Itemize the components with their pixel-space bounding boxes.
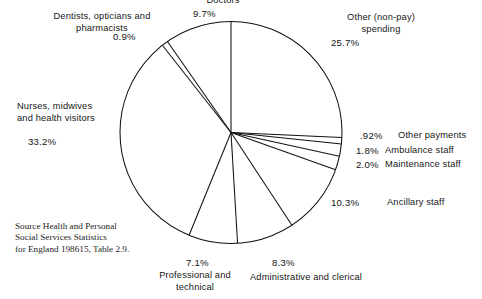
label-dentists-pct: 0.9% [113,31,136,42]
source-note-line3: for England 198615, Table 2.9. [15,244,129,255]
label-admin-name: Administrative and clerical [250,272,362,284]
label-professional: Professional and technical [133,270,257,293]
label-dentists: Dentists, opticians and pharmacists [28,11,176,34]
label-ancillary-name: Ancillary staff [387,197,444,209]
label-maintenance-name: Maintenance staff [385,159,461,171]
label-professional-line1: Professional and [133,270,257,282]
label-professional-pct: 7.1% [186,257,209,268]
label-doctors: Doctors [183,0,263,7]
label-other-payments-name: Other payments [398,130,466,142]
label-nurses-line2: and health visitors [17,113,142,125]
label-doctors-name: Doctors [183,0,263,7]
source-note-line1: Source Health and Personal [15,221,129,232]
label-other-nonpay-line2: spending [316,24,446,36]
label-other-nonpay: Other (non-pay) spending [316,12,446,35]
label-nurses: Nurses, midwives and health visitors [17,101,142,124]
label-nurses-pct: 33.2% [28,136,56,147]
label-other-nonpay-line1: Other (non-pay) [316,12,446,24]
label-dentists-line2: pharmacists [28,23,176,35]
label-other-payments-pct: .92% [360,130,383,141]
label-admin-pct: 8.3% [272,257,295,268]
source-note: Source Health and Personal Social Servic… [15,221,129,255]
label-doctors-pct: 9.7% [193,8,216,19]
source-note-line2: Social Services Statistics [15,232,129,243]
label-ambulance-name: Ambulance staff [385,145,454,157]
label-other-nonpay-pct: 25.7% [331,37,359,48]
label-ancillary-pct: 10.3% [331,197,359,208]
label-ambulance-pct: 1.8% [356,145,379,156]
label-dentists-line1: Dentists, opticians and [28,11,176,23]
label-nurses-line1: Nurses, midwives [17,101,142,113]
pie-chart-figure: Doctors 9.7% Dentists, opticians and pha… [0,0,482,299]
label-maintenance-pct: 2.0% [356,159,379,170]
pie-slices-group [120,22,342,244]
label-professional-line2: technical [133,282,257,294]
